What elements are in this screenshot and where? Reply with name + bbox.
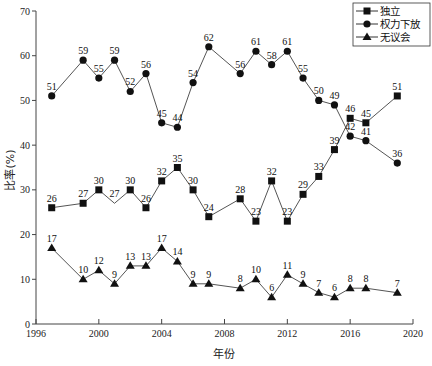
square-marker-icon bbox=[80, 200, 87, 207]
y-axis-title: 比率(%) bbox=[3, 149, 17, 190]
square-marker-icon bbox=[190, 186, 197, 193]
data-label: 42 bbox=[345, 121, 355, 132]
circle-marker-icon bbox=[299, 74, 306, 81]
triangle-marker-icon bbox=[346, 284, 355, 292]
y-tick-label: 20 bbox=[20, 229, 30, 240]
square-marker-icon bbox=[205, 213, 212, 220]
data-label: 13 bbox=[125, 251, 135, 262]
circle-marker-icon bbox=[331, 101, 338, 108]
data-label: 49 bbox=[329, 90, 339, 101]
data-label: 8 bbox=[238, 273, 243, 284]
data-label: 11 bbox=[283, 260, 293, 271]
data-label: 30 bbox=[188, 175, 198, 186]
square-marker-icon bbox=[142, 204, 149, 211]
data-label: 23 bbox=[282, 206, 292, 217]
square-marker-icon bbox=[158, 177, 165, 184]
square-marker-icon bbox=[237, 195, 244, 202]
square-marker-icon bbox=[174, 164, 181, 171]
square-marker-icon bbox=[300, 191, 307, 198]
legend-label: 权力下放 bbox=[380, 18, 421, 30]
legend-label: 无议会 bbox=[380, 31, 411, 43]
data-label: 9 bbox=[206, 269, 211, 280]
data-label: 26 bbox=[141, 193, 151, 204]
triangle-marker-icon bbox=[189, 279, 198, 287]
data-label: 45 bbox=[361, 108, 371, 119]
data-label: 17 bbox=[47, 233, 57, 244]
data-label: 45 bbox=[157, 108, 167, 119]
circle-marker-icon bbox=[48, 92, 55, 99]
circle-marker-icon bbox=[80, 57, 87, 64]
triangle-marker-icon bbox=[126, 261, 135, 269]
x-tick-label: 2020 bbox=[403, 328, 423, 339]
data-label: 46 bbox=[345, 103, 355, 114]
data-label: 6 bbox=[269, 282, 274, 293]
data-label: 30 bbox=[94, 175, 104, 186]
data-label: 33 bbox=[314, 161, 324, 172]
circle-marker-icon bbox=[127, 88, 134, 95]
circle-marker-icon bbox=[95, 74, 102, 81]
data-label: 8 bbox=[348, 273, 353, 284]
triangle-marker-icon bbox=[157, 243, 166, 251]
data-label: 9 bbox=[301, 269, 306, 280]
triangle-marker-icon bbox=[314, 288, 323, 296]
data-label: 12 bbox=[94, 255, 104, 266]
circle-marker-icon bbox=[158, 119, 165, 126]
data-label: 30 bbox=[125, 175, 135, 186]
square-marker-icon bbox=[252, 218, 259, 225]
triangle-marker-icon bbox=[361, 284, 370, 292]
line-chart: 0102030405060701996200020042008201220162… bbox=[0, 0, 432, 366]
legend-label: 独立 bbox=[380, 5, 400, 17]
x-tick-label: 2008 bbox=[215, 328, 235, 339]
legend: 独立 权力下放 无议会 bbox=[353, 3, 430, 46]
square-marker-icon bbox=[364, 8, 371, 15]
circle-marker-icon bbox=[347, 133, 354, 140]
series-2 bbox=[47, 243, 402, 300]
data-label: 17 bbox=[157, 233, 167, 244]
data-label: 59 bbox=[78, 45, 88, 56]
x-axis-title: 年份 bbox=[213, 347, 235, 361]
data-label: 27 bbox=[110, 188, 120, 199]
triangle-marker-icon bbox=[251, 275, 260, 283]
triangle-marker-icon bbox=[173, 257, 182, 265]
square-marker-icon bbox=[268, 177, 275, 184]
triangle-marker-icon bbox=[94, 266, 103, 274]
y-tick-label: 70 bbox=[20, 6, 30, 17]
data-label: 32 bbox=[157, 166, 167, 177]
data-label: 6 bbox=[332, 282, 337, 293]
data-label: 61 bbox=[282, 36, 292, 47]
circle-marker-icon bbox=[252, 48, 259, 55]
circle-marker-icon bbox=[394, 159, 401, 166]
data-label: 56 bbox=[141, 59, 151, 70]
data-label: 51 bbox=[392, 81, 402, 92]
square-marker-icon bbox=[394, 92, 401, 99]
data-label: 55 bbox=[94, 63, 104, 74]
y-tick-label: 30 bbox=[20, 184, 30, 195]
y-tick-label: 40 bbox=[20, 140, 30, 151]
circle-marker-icon bbox=[362, 137, 369, 144]
data-label: 61 bbox=[251, 36, 261, 47]
data-label: 14 bbox=[172, 246, 182, 257]
x-tick-label: 2012 bbox=[277, 328, 297, 339]
data-label: 26 bbox=[47, 193, 57, 204]
data-label: 9 bbox=[191, 269, 196, 280]
circle-marker-icon bbox=[189, 79, 196, 86]
data-label: 7 bbox=[395, 278, 400, 289]
data-label: 27 bbox=[78, 188, 88, 199]
square-marker-icon bbox=[48, 204, 55, 211]
data-label: 9 bbox=[112, 269, 117, 280]
square-marker-icon bbox=[127, 186, 134, 193]
square-marker-icon bbox=[331, 146, 338, 153]
value-labels: 2627302730263235302428233223293339464551… bbox=[47, 32, 403, 293]
data-label: 13 bbox=[141, 251, 151, 262]
data-label: 23 bbox=[251, 206, 261, 217]
data-label: 24 bbox=[204, 202, 214, 213]
y-tick-label: 50 bbox=[20, 95, 30, 106]
data-label: 8 bbox=[363, 273, 368, 284]
data-label: 39 bbox=[329, 135, 339, 146]
x-tick-label: 2004 bbox=[152, 328, 172, 339]
circle-marker-icon bbox=[205, 43, 212, 50]
data-label: 32 bbox=[267, 166, 277, 177]
data-label: 28 bbox=[235, 184, 245, 195]
circle-marker-icon bbox=[363, 20, 370, 27]
data-label: 36 bbox=[392, 148, 402, 159]
